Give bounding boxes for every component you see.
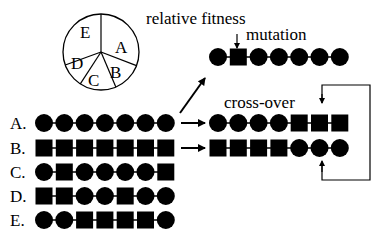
gene-square-icon bbox=[117, 140, 134, 157]
population-label-d: D. bbox=[10, 188, 27, 205]
gene-circle-icon bbox=[290, 48, 308, 66]
gene-circle-icon bbox=[137, 114, 155, 132]
chromosome-d bbox=[36, 187, 175, 205]
pie-label-b: B bbox=[110, 64, 121, 81]
crossover-offspring-2 bbox=[210, 139, 349, 157]
gene-circle-icon bbox=[270, 114, 288, 132]
gene-circle-icon bbox=[76, 163, 94, 181]
gene-square-icon bbox=[270, 140, 287, 157]
gene-circle-icon bbox=[35, 163, 53, 181]
gene-square-icon bbox=[96, 140, 113, 157]
gene-square-icon bbox=[291, 115, 308, 132]
gene-square-icon bbox=[76, 140, 93, 157]
gene-square-icon bbox=[56, 164, 73, 181]
gene-circle-icon bbox=[137, 163, 155, 181]
gene-square-icon bbox=[36, 140, 53, 157]
gene-circle-icon bbox=[209, 48, 227, 66]
gene-square-icon bbox=[137, 140, 154, 157]
diagram-canvas bbox=[0, 0, 381, 244]
gene-circle-icon bbox=[157, 187, 175, 205]
population-label-c: C. bbox=[10, 164, 26, 181]
mutation-label: mutation bbox=[246, 26, 306, 43]
gene-circle-icon bbox=[157, 114, 175, 132]
gene-square-icon bbox=[210, 140, 227, 157]
gene-circle-icon bbox=[55, 114, 73, 132]
chromosome-c bbox=[35, 163, 174, 181]
population-label-b: B. bbox=[10, 140, 26, 157]
gene-circle-icon bbox=[311, 139, 329, 157]
crossover-label: cross-over bbox=[224, 94, 295, 111]
fitness-pie-chart bbox=[63, 14, 139, 90]
chromosome-b bbox=[36, 140, 175, 157]
gene-square-icon bbox=[157, 140, 174, 157]
crossover-loop-line bbox=[322, 85, 370, 180]
gene-circle-icon bbox=[270, 48, 288, 66]
gene-square-icon bbox=[56, 188, 73, 205]
gene-circle-icon bbox=[76, 114, 94, 132]
population-label-e: E. bbox=[10, 212, 25, 229]
population-chromosomes bbox=[35, 114, 175, 229]
gene-circle-icon bbox=[209, 114, 227, 132]
chromosome-a bbox=[35, 114, 175, 132]
pie-label-c: C bbox=[88, 72, 99, 89]
gene-square-icon bbox=[117, 188, 134, 205]
mutation-chromosome bbox=[209, 48, 349, 66]
gene-square-icon bbox=[250, 140, 267, 157]
gene-circle-icon bbox=[250, 48, 268, 66]
gene-circle-icon bbox=[331, 139, 349, 157]
gene-square-icon bbox=[331, 115, 348, 132]
gene-square-icon bbox=[230, 140, 247, 157]
gene-square-icon bbox=[56, 140, 73, 157]
gene-circle-icon bbox=[311, 48, 329, 66]
mutated-chromosome bbox=[209, 48, 349, 66]
gene-circle-icon bbox=[96, 163, 114, 181]
gene-square-icon bbox=[76, 212, 93, 229]
gene-square-icon bbox=[117, 212, 134, 229]
gene-circle-icon bbox=[55, 211, 73, 229]
gene-circle-icon bbox=[137, 187, 155, 205]
crossover-chromosomes bbox=[209, 114, 349, 157]
chromosome-e bbox=[35, 211, 175, 229]
gene-square-icon bbox=[36, 188, 53, 205]
gene-circle-icon bbox=[76, 187, 94, 205]
gene-square-icon bbox=[157, 164, 174, 181]
gene-circle-icon bbox=[290, 139, 308, 157]
gene-circle-icon bbox=[157, 211, 175, 229]
pie-label-d: D bbox=[71, 55, 83, 72]
crossover-offspring-1 bbox=[209, 114, 348, 132]
gene-square-icon bbox=[311, 115, 328, 132]
arrow-to-mutation-icon bbox=[180, 78, 205, 113]
gene-circle-icon bbox=[96, 114, 114, 132]
gene-square-icon bbox=[230, 49, 247, 66]
relative-fitness-label: relative fitness bbox=[146, 10, 246, 27]
genetic-algorithm-diagram: relative fitness mutation cross-over A B… bbox=[0, 0, 381, 244]
gene-circle-icon bbox=[96, 187, 114, 205]
gene-square-icon bbox=[96, 212, 113, 229]
pie-label-a: A bbox=[115, 39, 127, 56]
population-label-a: A. bbox=[10, 115, 27, 132]
gene-circle-icon bbox=[35, 211, 53, 229]
gene-circle-icon bbox=[116, 114, 134, 132]
gene-circle-icon bbox=[229, 114, 247, 132]
pie-label-e: E bbox=[80, 24, 90, 41]
gene-circle-icon bbox=[250, 114, 268, 132]
gene-circle-icon bbox=[331, 48, 349, 66]
gene-circle-icon bbox=[116, 163, 134, 181]
gene-square-icon bbox=[137, 212, 154, 229]
gene-circle-icon bbox=[35, 114, 53, 132]
